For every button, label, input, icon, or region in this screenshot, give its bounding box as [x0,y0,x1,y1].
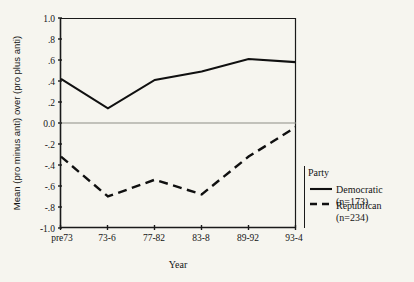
y-axis-title: Mean (pro minus anti) over (pro plus ant… [11,36,22,210]
y-tick-label-2: .8 [48,35,55,45]
x-tick-label-93-4: 93-4 [285,233,303,243]
y-tick-label-7: -.2 [45,140,56,150]
y-tick-label-11: -1.0 [40,224,55,234]
x-tick-label-77-82: 77-82 [143,233,165,243]
line-chart: 1.0 .8 .6 .4 .2 0.0 -.2 -.4 -.6 -.8 -1.0… [0,0,414,282]
y-tick-label-5: .2 [48,98,55,108]
y-tick-label-9: -.6 [45,182,56,192]
y-tick-label-6: 0.0 [43,119,55,129]
legend-sublabel-republican: (n=234) [336,212,368,224]
y-tick-label-10: -.8 [45,203,56,213]
x-tick-label-pre73: pre73 [51,233,73,243]
y-tick-label-3: .6 [48,56,55,66]
legend-title: Party [308,167,329,178]
x-tick-label-83-8: 83-8 [192,233,210,243]
y-tick-label-4: .4 [48,77,55,87]
x-tick-label-73-6: 73-6 [98,233,116,243]
chart-container: 1.0 .8 .6 .4 .2 0.0 -.2 -.4 -.6 -.8 -1.0… [0,0,414,282]
x-axis-title: Year [169,259,188,270]
y-tick-label-1: 1.0 [43,14,55,24]
legend-label-republican: Republican [336,200,382,211]
legend-label-democratic: Democratic [336,184,383,195]
y-tick-label-8: -.4 [45,161,56,171]
x-tick-label-89-92: 89-92 [237,233,259,243]
